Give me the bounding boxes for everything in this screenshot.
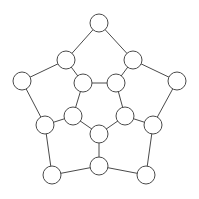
node-H xyxy=(36,116,54,134)
node-G xyxy=(107,74,125,92)
node-M xyxy=(43,166,61,184)
node-E xyxy=(168,72,186,90)
node-N xyxy=(90,157,108,175)
node-I xyxy=(64,107,82,125)
node-K xyxy=(144,116,162,134)
edges-layer xyxy=(22,23,177,175)
node-B xyxy=(57,51,75,69)
nodes-layer xyxy=(13,14,186,184)
node-F xyxy=(74,74,92,92)
node-A xyxy=(90,14,108,32)
node-L xyxy=(90,125,108,143)
node-C xyxy=(124,51,142,69)
node-O xyxy=(137,166,155,184)
graph-diagram xyxy=(0,0,199,199)
node-J xyxy=(116,107,134,125)
node-D xyxy=(13,72,31,90)
